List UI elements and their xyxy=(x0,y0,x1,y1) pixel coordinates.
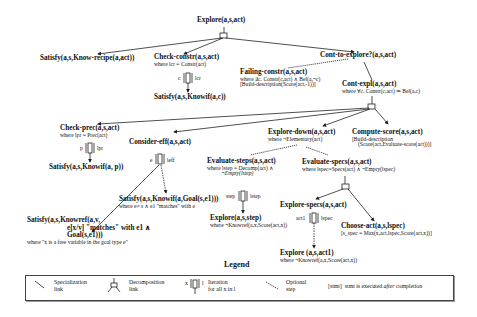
node-condition: where ∀c. Constr(c,act) ⇒ Bel(a,c) xyxy=(342,89,420,95)
node-condition: where e≠ s ∧ e1 "matches" with e xyxy=(119,204,218,210)
node-failing-constr: Failing-constr(a,s,act) where ∃c. Constr… xyxy=(240,69,320,88)
node-choose-act: Choose-act(a,s,lspec) [s_spec = Max(x,ac… xyxy=(341,223,432,236)
node-cont-expl: Cont-expl(a,s,act) where ∀c. Constr(c,ac… xyxy=(342,81,420,94)
node-condition-line2: ¬Empty(lstep) xyxy=(207,171,276,177)
legend-label-emphasis: after xyxy=(384,283,395,289)
legend-code: [stmt] xyxy=(328,283,342,289)
node-condition: where ¬Elementary(act) xyxy=(268,137,335,143)
iteration-list: leff xyxy=(167,157,175,163)
iteration-var: step xyxy=(226,193,235,199)
node-explore-act1: Explore (a,s,act1) where ¬Knowref(a,x,Sc… xyxy=(280,250,357,263)
node-condition: where lpr = Prec(act) xyxy=(60,133,119,139)
legend-label-line2: for all x in l xyxy=(208,286,235,293)
legend-label-line2: step xyxy=(286,286,306,293)
node-condition: where lcr = Constr(act) xyxy=(154,62,219,68)
node-satisfy-knowif-goal: Satisfy(a,s,Knowif(a,Goal(s,e1))) where … xyxy=(119,196,218,209)
node-title: Satisfy(a,s,Knowif(a, p)) xyxy=(49,164,123,172)
legend-label-line2: link xyxy=(129,286,164,293)
node-title: Satisfy(a,s,Knowif(a,c)) xyxy=(154,94,226,102)
node-explore-step: Explore(a,s,step) where ¬Knowref(a,x,Sco… xyxy=(210,215,287,228)
node-compute-score: Compute-score(a,s,act) [Build-descriptio… xyxy=(352,129,431,148)
node-post-action-line2: (Score(act,Evaluate-score(act)))] xyxy=(352,142,431,148)
node-cont-to-explore: Cont-to-explore?(a,s,act) xyxy=(320,52,396,60)
node-condition: where ¬Knowref(a,x,Score(act,x)) xyxy=(210,223,287,229)
legend-title: Legend xyxy=(224,260,249,269)
legend-iteration-var: x xyxy=(185,280,188,287)
legend-optional-step: Optional step xyxy=(286,279,306,292)
legend-label-end: completion xyxy=(395,283,423,289)
node-explore: Explore(a,s,act) xyxy=(197,17,245,25)
node-title: Explore(a,s,act) xyxy=(197,17,245,25)
legend-label: Optional xyxy=(286,279,306,286)
legend-label-line2: link xyxy=(54,286,87,293)
legend-label: Specialization xyxy=(54,279,87,286)
iteration-list: lpr xyxy=(97,145,103,151)
node-title: Cont-to-explore?(a,s,act) xyxy=(320,52,396,60)
node-post-action: [Build-description(Score(act,-1))] xyxy=(240,82,320,88)
node-title: Consider-eff(a,s,act) xyxy=(129,139,191,147)
node-satisfy-knowif-p: Satisfy(a,s,Knowif(a, p)) xyxy=(49,164,123,172)
node-explore-specs: Explore-specs(a,s,act) xyxy=(280,202,347,210)
iteration-var: p xyxy=(80,145,83,151)
legend-label: Decomposition xyxy=(129,279,164,286)
legend-specialization: Specialization link xyxy=(54,279,87,292)
legend-iteration: Iteration for all x in l xyxy=(208,279,235,292)
legend-label: stmt is executed xyxy=(345,283,384,289)
node-explore-down: Explore-down(a,s,act) where ¬Elementary(… xyxy=(268,129,335,142)
iteration-list: lstep xyxy=(250,193,261,199)
iteration-list: lspec xyxy=(321,215,333,221)
node-evaluate-specs: Evaluate-specs(a,s,act) where lspec=Spec… xyxy=(302,159,395,172)
node-consider-eff: Consider-eff(a,s,act) xyxy=(129,139,191,147)
iteration-var: act1 xyxy=(296,215,305,221)
node-check-prec: Check-prec(a,s,act) where lpr = Prec(act… xyxy=(60,125,119,138)
node-condition: where lspec=Specs(act) ∧ ¬Empty(lspec) xyxy=(302,167,395,173)
node-check-constr: Check-constr(a,s,act) where lcr = Constr… xyxy=(154,54,219,67)
iteration-var: e xyxy=(150,157,152,163)
node-title: Explore-specs(a,s,act) xyxy=(280,202,347,210)
node-satisfy-know-recipe: Satisfy(a,s,Know-recipe(a,act)) xyxy=(40,55,134,63)
node-condition: where ¬Knowref(a,x,Score(act,x)) xyxy=(280,258,357,264)
iteration-var: c xyxy=(178,75,180,81)
node-satisfy-knowif-c: Satisfy(a,s,Knowif(a,c)) xyxy=(154,94,226,102)
legend-iteration-list: l xyxy=(202,280,204,287)
node-condition: where "x is a free variable in the goal … xyxy=(27,240,151,246)
node-evaluate-steps: Evaluate-steps(a,s,act) where lstep = De… xyxy=(207,158,276,177)
node-title: Satisfy(a,s,Know-recipe(a,act)) xyxy=(40,55,134,63)
legend-label: Iteration xyxy=(208,279,235,286)
node-post-action: [s_spec = Max(x,act,lspec,Score(act,x))] xyxy=(341,231,432,237)
legend-after-completion: [stmt] stmt is executed after completion xyxy=(328,283,422,290)
iteration-list: lcr xyxy=(195,75,201,81)
node-satisfy-knowref: Satisfy(a,s,Knowref(a,v, e[x/v] "matches… xyxy=(27,217,151,246)
legend-decomposition: Decomposition link xyxy=(129,279,164,292)
